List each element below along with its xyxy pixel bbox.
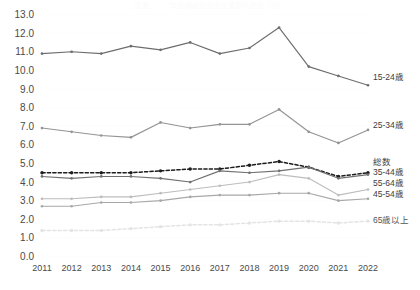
- x-axis-tick-label: 2018: [239, 263, 259, 273]
- y-axis-tick-label: 1.0: [20, 232, 34, 243]
- y-axis-tick-label: 7.0: [20, 121, 34, 132]
- data-point: [159, 49, 162, 52]
- data-point: [70, 197, 73, 200]
- data-point: [337, 142, 340, 145]
- x-axis-tick-label: 2019: [269, 263, 289, 273]
- data-point: [367, 173, 370, 176]
- data-point: [130, 201, 133, 204]
- data-point: [159, 177, 162, 180]
- data-point: [248, 123, 251, 126]
- data-point: [100, 229, 103, 232]
- data-point: [130, 196, 133, 199]
- data-point: [189, 127, 192, 130]
- data-point: [129, 227, 132, 230]
- data-point: [100, 201, 103, 204]
- data-point: [277, 219, 280, 222]
- legend-item-4: 55-64歳: [373, 179, 404, 189]
- y-axis-tick-label: 6.0: [20, 139, 34, 150]
- data-point: [130, 45, 133, 48]
- data-point: [218, 123, 221, 126]
- y-axis-tick-label: 10.0: [15, 65, 35, 76]
- data-point: [337, 221, 340, 224]
- data-point: [70, 205, 73, 208]
- data-point: [188, 167, 191, 170]
- series-line-2: [42, 162, 368, 177]
- data-point: [218, 223, 221, 226]
- data-point: [337, 75, 340, 78]
- data-point: [100, 196, 103, 199]
- data-point: [307, 177, 310, 180]
- data-point: [367, 188, 370, 191]
- data-point: [367, 84, 370, 87]
- data-point: [70, 50, 73, 53]
- y-axis-tick-label: 0.0: [20, 251, 34, 262]
- data-point: [70, 229, 73, 232]
- data-point: [159, 121, 162, 124]
- data-point: [41, 127, 44, 130]
- data-point: [248, 164, 251, 167]
- series-line-5: [42, 193, 368, 206]
- y-axis-tick-label: 8.0: [20, 102, 34, 113]
- data-point: [278, 108, 281, 111]
- y-axis-tick-label: 4.0: [20, 177, 34, 188]
- x-axis-tick-label: 2020: [299, 263, 319, 273]
- legend-item-6: 65歳以上: [373, 216, 409, 226]
- data-point: [159, 199, 162, 202]
- data-point: [70, 177, 73, 180]
- data-point: [307, 166, 310, 169]
- data-point: [188, 223, 191, 226]
- data-point: [366, 219, 369, 222]
- data-point: [40, 171, 43, 174]
- y-axis-tick-label: 13.0: [15, 9, 35, 20]
- x-axis-tick-label: 2016: [180, 263, 200, 273]
- y-axis-tick-label: 11.0: [15, 46, 34, 57]
- x-axis-tick-label: 2013: [91, 263, 111, 273]
- data-point: [218, 170, 221, 173]
- x-axis-tick-label: 2021: [328, 263, 348, 273]
- data-point: [100, 134, 103, 137]
- data-point: [41, 197, 44, 200]
- data-point: [248, 194, 251, 197]
- series-line-6: [42, 221, 368, 230]
- data-point: [189, 196, 192, 199]
- data-point: [278, 192, 281, 195]
- x-axis-tick-label: 2011: [32, 263, 51, 273]
- data-point: [100, 175, 103, 178]
- data-point: [41, 205, 44, 208]
- y-axis-tick-label: 3.0: [20, 195, 34, 206]
- data-point: [100, 52, 103, 55]
- data-point: [278, 173, 281, 176]
- data-point: [189, 41, 192, 44]
- data-point: [100, 171, 103, 174]
- data-point: [130, 136, 133, 139]
- data-point: [218, 184, 221, 187]
- data-point: [337, 199, 340, 202]
- y-axis-tick-label: 2.0: [20, 214, 34, 225]
- data-point: [367, 129, 370, 132]
- legend-item-0: 15-24歳: [373, 73, 404, 83]
- data-point: [307, 192, 310, 195]
- line-chart: 図表 年齢階級別完全失業率の推移（％） 0.01.02.03.04.05.06.…: [0, 0, 420, 290]
- data-point: [248, 171, 251, 174]
- x-axis-tick-label: 2012: [62, 263, 82, 273]
- data-point: [70, 130, 73, 133]
- legend-item-1: 25-34歳: [373, 121, 404, 131]
- data-point: [159, 192, 162, 195]
- data-point: [278, 26, 281, 29]
- data-point: [278, 170, 281, 173]
- data-point: [189, 188, 192, 191]
- data-point: [307, 65, 310, 68]
- y-axis-tick-label: 5.0: [20, 158, 34, 169]
- legend-item-5: 45-54歳: [373, 190, 404, 200]
- series-line-4: [42, 175, 368, 199]
- data-point: [129, 171, 132, 174]
- data-point: [159, 169, 162, 172]
- data-point: [41, 52, 44, 55]
- data-point: [248, 181, 251, 184]
- data-point: [130, 175, 133, 178]
- x-axis-tick-label: 2015: [151, 263, 171, 273]
- data-point: [307, 219, 310, 222]
- data-point: [40, 229, 43, 232]
- x-axis-tick-label: 2017: [210, 263, 230, 273]
- series-line-0: [42, 28, 368, 86]
